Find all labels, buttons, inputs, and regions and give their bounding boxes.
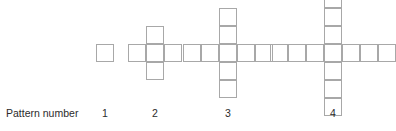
pattern-square — [219, 44, 237, 62]
pattern-square — [128, 44, 146, 62]
pattern-square — [219, 62, 237, 80]
pattern-square — [324, 80, 342, 98]
pattern-square — [306, 44, 324, 62]
pattern-square — [324, 8, 342, 26]
pattern-square — [219, 8, 237, 26]
pattern-square — [324, 44, 342, 62]
pattern-square — [324, 62, 342, 80]
pattern-square — [237, 44, 255, 62]
pattern-square — [324, 0, 342, 8]
pattern-square — [270, 44, 288, 62]
pattern-square — [288, 44, 306, 62]
pattern-sequence-figure: Pattern number 1 2 3 4 — [0, 0, 396, 131]
pattern-square — [146, 44, 164, 62]
pattern-square — [324, 26, 342, 44]
pattern-square — [146, 26, 164, 44]
pattern-number-caption: Pattern number — [6, 105, 78, 121]
pattern-square — [360, 44, 378, 62]
pattern-square — [201, 44, 219, 62]
pattern-square — [164, 44, 182, 62]
pattern-square — [183, 44, 201, 62]
pattern-square — [378, 44, 396, 62]
pattern-label-row: Pattern number 1 2 3 4 — [0, 105, 396, 125]
pattern-square — [219, 80, 237, 98]
pattern-label-4: 4 — [321, 105, 345, 121]
pattern-square — [146, 62, 164, 80]
pattern-square — [255, 44, 273, 62]
pattern-label-2: 2 — [143, 105, 167, 121]
pattern-label-3: 3 — [216, 105, 240, 121]
pattern-square — [219, 26, 237, 44]
pattern-square — [96, 44, 114, 62]
pattern-label-1: 1 — [93, 105, 117, 121]
pattern-square — [342, 44, 360, 62]
